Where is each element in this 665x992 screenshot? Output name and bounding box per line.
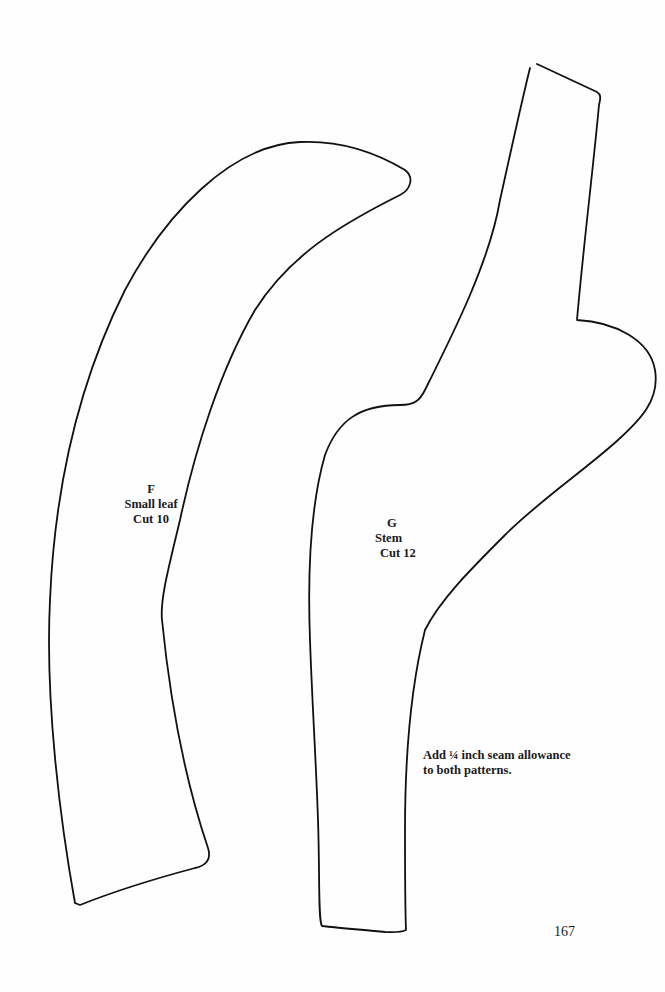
pattern-g-name: Stem <box>375 531 435 546</box>
pattern-g-label: G Stem Cut 12 <box>375 516 435 561</box>
pattern-g-letter: G <box>375 516 435 531</box>
pattern-f-cut: Cut 10 <box>96 512 206 527</box>
note-line-2: to both patterns. <box>423 763 633 778</box>
pattern-f-name: Small leaf <box>96 497 206 512</box>
note-line-1: Add ¼ inch seam allowance <box>423 748 633 763</box>
seam-allowance-note: Add ¼ inch seam allowance to both patter… <box>423 748 633 778</box>
stem-outline <box>309 64 656 932</box>
pattern-f-label: F Small leaf Cut 10 <box>96 482 206 527</box>
page-number: 167 <box>554 924 575 940</box>
document-page: F Small leaf Cut 10 G Stem Cut 12 Add ¼ … <box>0 0 665 992</box>
pattern-g-cut: Cut 12 <box>375 546 435 561</box>
pattern-f-letter: F <box>96 482 206 497</box>
